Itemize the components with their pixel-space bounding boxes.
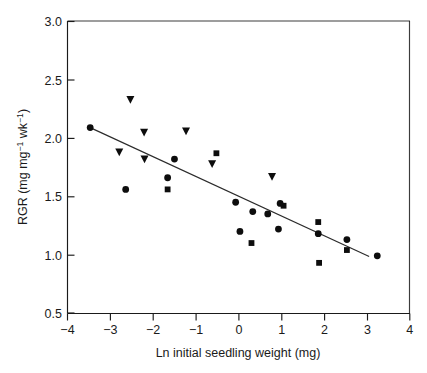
data-point-triangle-down: [182, 128, 190, 136]
y-axis-title-prefix: RGR (mg mg: [16, 151, 30, 225]
regression-line-group: [90, 128, 369, 257]
y-axis-ticks: [68, 22, 75, 314]
data-point-triangle-down: [140, 129, 148, 137]
x-axis-tick-labels: −4 −3 −2 −1 0 1 2 3 4: [60, 323, 413, 337]
data-point-triangle-down: [126, 96, 134, 104]
data-point-square: [165, 187, 171, 193]
x-ticklabel-4: 4: [406, 323, 413, 337]
y-axis-title-sup2: −1: [15, 113, 25, 123]
x-ticklabel-1: 1: [278, 323, 285, 337]
data-point-circle: [275, 226, 282, 233]
data-markers: [87, 96, 381, 266]
data-point-triangle-down: [141, 155, 149, 163]
data-point-circle: [315, 230, 322, 237]
data-point-circle: [87, 124, 94, 131]
data-point-circle: [122, 186, 129, 193]
y-axis-tick-labels: 3.0 2.5 2.0 1.5 1.0 0.5: [45, 15, 62, 321]
figure-container: 3.0 2.5 2.0 1.5 1.0 0.5 −4 −3 −2 −1 0 1: [0, 0, 427, 373]
axis-spines: [68, 21, 411, 314]
data-point-circle: [374, 252, 381, 259]
regression-line: [90, 128, 369, 257]
y-axis-title-mid: wk: [16, 122, 30, 142]
data-point-square: [249, 240, 255, 246]
data-point-circle: [249, 208, 256, 215]
x-axis-ticks: [68, 314, 410, 321]
data-point-circle: [232, 199, 239, 206]
data-point-square: [315, 219, 321, 225]
data-point-triangle-down: [115, 148, 123, 156]
x-ticklabel--1: −1: [189, 323, 203, 337]
scatter-plot: 3.0 2.5 2.0 1.5 1.0 0.5 −4 −3 −2 −1 0 1: [0, 0, 427, 373]
x-axis-title: Ln initial seedling weight (mg): [156, 346, 321, 360]
data-point-square: [281, 203, 287, 209]
data-point-circle: [237, 228, 244, 235]
svg-text:RGR (mg mg−1 wk−1): RGR (mg mg−1 wk−1): [15, 109, 30, 225]
data-point-square: [316, 260, 322, 266]
y-ticklabel-2.0: 2.0: [45, 132, 62, 146]
x-ticklabel--4: −4: [60, 323, 74, 337]
y-axis-title-sup1: −1: [15, 141, 25, 151]
y-ticklabel-1.0: 1.0: [45, 249, 62, 263]
data-point-square: [214, 150, 220, 156]
data-point-circle: [264, 210, 271, 217]
y-ticklabel-3.0: 3.0: [45, 15, 62, 29]
data-point-triangle-down: [268, 173, 276, 181]
x-ticklabel-3: 3: [364, 323, 371, 337]
data-point-circle: [164, 174, 171, 181]
y-ticklabel-2.5: 2.5: [45, 74, 62, 88]
x-ticklabel--3: −3: [103, 323, 117, 337]
y-axis-title: RGR (mg mg−1 wk−1): [15, 109, 30, 225]
x-ticklabel-0: 0: [235, 323, 242, 337]
y-axis-title-suffix: ): [16, 109, 30, 113]
data-point-circle: [344, 236, 351, 243]
data-point-circle: [171, 156, 178, 163]
data-point-triangle-down: [208, 160, 216, 168]
data-point-square: [344, 247, 350, 253]
y-ticklabel-0.5: 0.5: [45, 307, 62, 321]
x-ticklabel--2: −2: [146, 323, 160, 337]
x-ticklabel-2: 2: [321, 323, 328, 337]
y-ticklabel-1.5: 1.5: [45, 190, 62, 204]
